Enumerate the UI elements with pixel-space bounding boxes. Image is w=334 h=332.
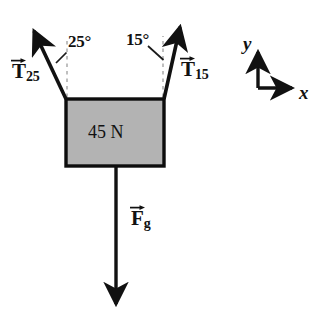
weight-letter: F <box>131 205 144 229</box>
tension-left-label: T 25 <box>12 58 40 84</box>
tension-left-subscript: 25 <box>26 69 40 84</box>
angle-label-right: 15° <box>126 31 149 48</box>
tension-right-label: T 15 <box>181 56 209 82</box>
tension-right-subscript: 15 <box>195 67 209 82</box>
free-body-diagram: 25° 15° T 25 T 15 F g <box>0 0 334 332</box>
axis-x-label: x <box>299 83 309 102</box>
axis-y-label: y <box>243 34 251 53</box>
tension-right-letter-text: T <box>181 57 195 81</box>
block-weight-label: 45 N <box>88 123 124 141</box>
weight-subscript: g <box>144 216 151 231</box>
diagram-canvas <box>0 0 334 332</box>
angle-label-left: 25° <box>68 33 91 50</box>
weight-label: F g <box>131 205 151 231</box>
tension-right-vector <box>164 27 180 99</box>
angle-leader-left <box>56 53 67 64</box>
angle-leader-right <box>148 46 164 60</box>
tension-left-letter: T <box>12 58 26 82</box>
tension-left-letter-text: T <box>12 59 26 83</box>
tension-right-letter: T <box>181 56 195 80</box>
weight-letter-text: F <box>131 206 144 230</box>
